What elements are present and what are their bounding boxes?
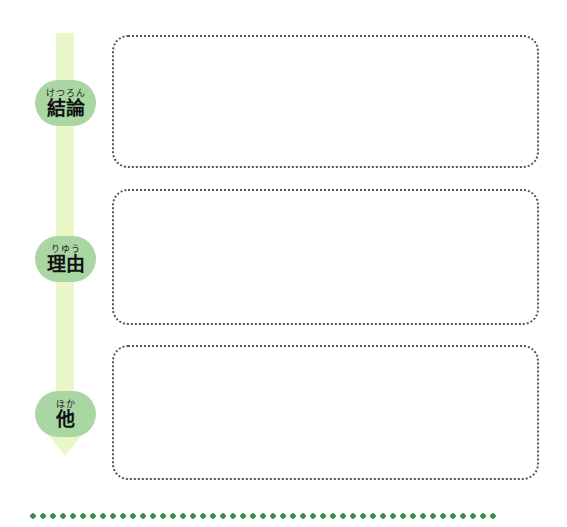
step-title: 結論 [47, 98, 85, 118]
conclusion-answer-box[interactable] [112, 35, 539, 168]
reason-answer-box[interactable] [112, 189, 539, 325]
dotted-divider [28, 512, 496, 520]
step-title: 他 [56, 409, 75, 429]
step-title: 理由 [47, 254, 85, 274]
other-answer-box[interactable] [112, 345, 539, 480]
step-label-conclusion: けつろん 結論 [35, 80, 96, 126]
step-label-other: ほか 他 [35, 391, 96, 437]
step-label-reason: りゆう 理由 [35, 236, 96, 282]
